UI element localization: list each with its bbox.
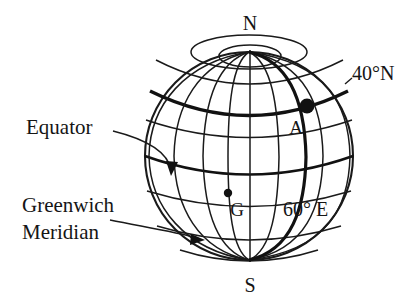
point-g-marker [224, 189, 232, 197]
label-point-g: G [230, 199, 244, 220]
label-north-pole: N [243, 12, 257, 34]
label-equator: Equator [26, 115, 92, 139]
label-south-pole: S [244, 274, 255, 296]
label-greenwich-meridian-line1: Greenwich [22, 193, 115, 217]
globe-outline-circle [145, 52, 353, 260]
latitude-40n-tick [345, 78, 352, 84]
label-point-a: A [289, 117, 303, 138]
label-latitude-40n: 40°N [352, 62, 394, 84]
point-a-marker [300, 99, 315, 114]
globe-svg: N S 40°N A G 60° E Equator Greenwich Mer… [0, 0, 415, 306]
label-longitude-60e: 60° E [283, 198, 328, 220]
label-greenwich-meridian-line2: Meridian [22, 220, 99, 244]
globe-diagram: N S 40°N A G 60° E Equator Greenwich Mer… [0, 0, 415, 306]
